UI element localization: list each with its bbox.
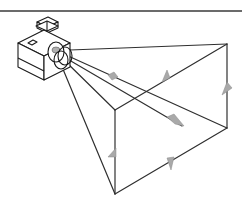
arrow-icon (167, 114, 184, 126)
arrow-icon (167, 157, 174, 170)
arrow-icon (162, 70, 170, 82)
camera-icon (18, 17, 72, 80)
edge-lens-right-bottom (66, 55, 227, 128)
edge-lens-top-right (70, 44, 227, 50)
edge-top-right-mid (115, 44, 227, 110)
arrow-icon (108, 148, 116, 157)
arrow-icon (108, 72, 118, 80)
central-ray (64, 57, 182, 126)
diagram-canvas (0, 0, 243, 205)
camera-frustum-diagram (0, 0, 243, 205)
direction-arrows (108, 70, 232, 170)
frustum-edges (60, 44, 227, 194)
